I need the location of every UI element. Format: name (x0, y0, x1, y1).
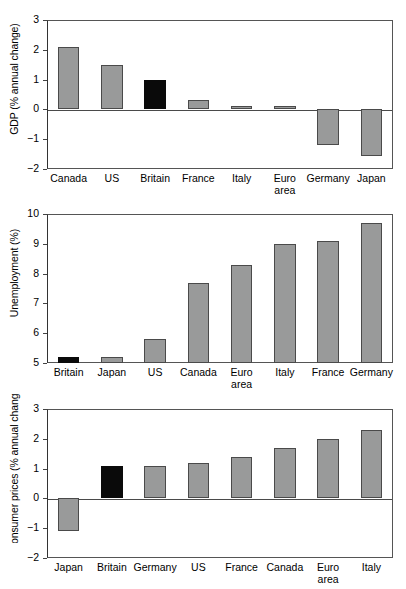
bar (231, 457, 253, 499)
y-tick-mark (43, 169, 47, 170)
y-axis-ticks-gdp: 3210−1−2 (0, 20, 47, 169)
bar (231, 106, 253, 109)
x-axis-label: Canada (47, 173, 90, 185)
x-axis-label: Germany (134, 562, 177, 574)
plot-area-gdp (47, 20, 393, 169)
bar (144, 466, 166, 499)
chart-panel-gdp: GDP (% annual change) 3210−1−2 CanadaUSB… (0, 4, 406, 200)
bar (58, 47, 80, 110)
x-axis-label: Italy (220, 173, 263, 185)
bar (144, 339, 166, 363)
y-tick-label: 0 (33, 102, 39, 114)
y-tick-label: 2 (33, 43, 39, 55)
bar (188, 283, 210, 363)
x-axis-labels-consumer-prices: JapanBritainGermanyUSFranceCanadaEuro ar… (47, 562, 393, 588)
bar-series-consumer-prices (47, 409, 393, 558)
bar (101, 65, 123, 110)
bar (144, 80, 166, 110)
y-tick-label: 5 (33, 356, 39, 368)
y-tick-label: 8 (33, 267, 39, 279)
bar (101, 466, 123, 499)
x-axis-label: Japan (47, 562, 90, 574)
x-axis-label: US (90, 173, 133, 185)
x-axis-label: Britain (90, 562, 133, 574)
bar (274, 106, 296, 109)
x-axis-label: Germany (350, 367, 393, 379)
x-axis-label: Italy (263, 367, 306, 379)
y-tick-label: 9 (33, 237, 39, 249)
bar (58, 357, 80, 363)
bar (317, 109, 339, 145)
bar (188, 100, 210, 109)
bar (274, 448, 296, 499)
y-tick-mark (43, 363, 47, 364)
y-axis-ticks-consumer-prices: 3210−1−2 (0, 409, 47, 558)
x-axis-labels-unemployment: BritainJapanUSCanadaEuro areaItalyFrance… (47, 367, 393, 393)
bar (101, 357, 123, 363)
y-tick-label: 3 (33, 13, 39, 25)
bar (361, 430, 383, 499)
y-tick-label: 1 (33, 462, 39, 474)
bar (317, 241, 339, 363)
y-tick-label: 10 (27, 207, 39, 219)
x-axis-label: Italy (350, 562, 393, 574)
bar (317, 439, 339, 499)
y-tick-label: 6 (33, 326, 39, 338)
x-axis-label: Japan (350, 173, 393, 185)
bar (231, 265, 253, 363)
y-tick-label: 2 (33, 432, 39, 444)
x-axis-label: Germany (307, 173, 350, 185)
x-axis-labels-gdp: CanadaUSBritainFranceItalyEuro areaGerma… (47, 173, 393, 199)
clipped-header-text (36, 0, 376, 2)
figure-canvas: GDP (% annual change) 3210−1−2 CanadaUSB… (0, 0, 406, 589)
plot-area-consumer-prices (47, 409, 393, 558)
x-axis-label: Britain (47, 367, 90, 379)
y-tick-label: −1 (27, 521, 39, 533)
y-tick-label: −2 (27, 551, 39, 563)
y-tick-label: −2 (27, 162, 39, 174)
y-axis-ticks-unemployment: 1098765 (0, 214, 47, 363)
x-axis-label: France (177, 173, 220, 185)
chart-panel-unemployment: Unemployment (%) 1098765 BritainJapanUSC… (0, 198, 406, 394)
bar (361, 109, 383, 155)
y-tick-label: 1 (33, 73, 39, 85)
x-axis-label: Japan (90, 367, 133, 379)
x-axis-label: France (307, 367, 350, 379)
bar-series-gdp (47, 20, 393, 169)
y-tick-label: 7 (33, 296, 39, 308)
y-tick-label: 0 (33, 491, 39, 503)
x-axis-label: France (220, 562, 263, 574)
bar (274, 244, 296, 363)
bar (188, 463, 210, 499)
bar (361, 223, 383, 363)
x-axis-label: Canada (177, 367, 220, 379)
plot-area-unemployment (47, 214, 393, 363)
x-axis-label: Euro area (263, 173, 306, 196)
chart-panel-consumer-prices: Consumer prices (% annual change) 3210−1… (0, 393, 406, 589)
x-axis-label: Euro area (307, 562, 350, 585)
x-axis-label: Canada (263, 562, 306, 574)
x-axis-label: Britain (134, 173, 177, 185)
y-tick-mark (43, 558, 47, 559)
bar-series-unemployment (47, 214, 393, 363)
y-tick-label: −1 (27, 132, 39, 144)
y-tick-label: 3 (33, 402, 39, 414)
bar (58, 498, 80, 531)
x-axis-label: Euro area (220, 367, 263, 390)
x-axis-label: US (134, 367, 177, 379)
x-axis-label: US (177, 562, 220, 574)
